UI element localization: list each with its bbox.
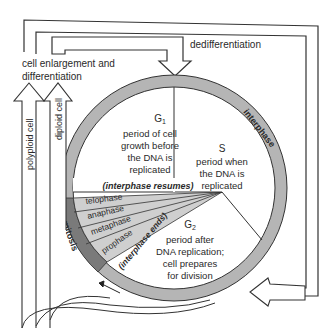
- g2-line-1: period after: [166, 234, 214, 245]
- s-line-2: the DNA is: [200, 168, 245, 179]
- cell-enlargement-label-2: differentiation: [22, 71, 82, 82]
- g2-line-4: for division: [167, 270, 212, 281]
- dedifferentiation-label: dedifferentiation: [190, 39, 261, 50]
- g1-line-4: replicated: [129, 164, 170, 175]
- g1-line-3: the DNA is: [128, 152, 173, 163]
- g1-line-1: period of cell: [123, 128, 177, 139]
- g1-line-2: growth before: [121, 140, 179, 151]
- s-line-3: replicated: [201, 180, 242, 191]
- s-line-1: period when: [196, 156, 248, 167]
- return-arrow-icon: [250, 278, 305, 306]
- cell-cycle-diagram: G1 period of cell growth before the DNA …: [0, 0, 334, 328]
- g2-line-3: cell prepares: [163, 258, 218, 269]
- polyploid-cell-label: polyploid cell: [25, 118, 35, 170]
- cell-enlargement-label-1: cell enlargement and: [22, 58, 115, 69]
- s-title: S: [219, 143, 226, 154]
- diploid-cell-label: diploid cell: [54, 98, 64, 140]
- interphase-resumes-label: (interphase resumes): [102, 181, 193, 191]
- g2-line-2: DNA replication;: [156, 246, 224, 257]
